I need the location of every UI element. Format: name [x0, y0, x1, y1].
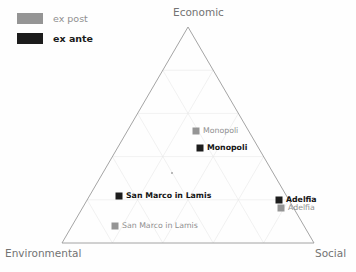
legend-label-ex-post: ex post — [53, 13, 88, 24]
data-point-marker — [193, 128, 200, 135]
data-point-marker — [276, 197, 283, 204]
data-point-label: San Marco in Lamis — [126, 192, 211, 200]
ternary-chart: ex post ex ante Economic Environmental S… — [0, 0, 356, 272]
data-point-label: Monopoli — [207, 144, 247, 152]
axis-label-environmental: Environmental — [5, 247, 81, 259]
ternary-gridlines — [87, 70, 289, 243]
data-point-marker — [112, 223, 119, 230]
legend-label-ex-ante: ex ante — [53, 33, 93, 44]
legend-item-ex-ante[interactable]: ex ante — [17, 31, 129, 46]
grid-center-tick — [171, 172, 173, 174]
legend-swatch-ex-ante — [17, 33, 43, 44]
data-point-label: Monopoli — [203, 127, 238, 135]
legend: ex post ex ante — [17, 11, 129, 51]
axis-label-economic: Economic — [173, 6, 224, 18]
data-point-marker — [197, 145, 204, 152]
data-point-label: Adelfia — [288, 204, 315, 212]
data-point-marker — [278, 205, 285, 212]
data-point-label: Adelfia — [286, 196, 317, 204]
legend-swatch-ex-post — [17, 13, 43, 24]
data-point-marker — [116, 193, 123, 200]
data-point-label: San Marco in Lamis — [122, 222, 198, 230]
legend-item-ex-post[interactable]: ex post — [17, 11, 129, 26]
axis-label-social: Social — [315, 247, 346, 259]
ternary-triangle-outline — [62, 27, 314, 243]
